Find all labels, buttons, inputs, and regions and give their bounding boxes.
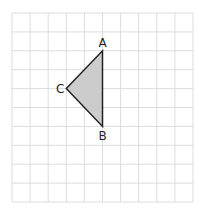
grid-diagram: A B C bbox=[0, 0, 200, 210]
vertex-label-b: B bbox=[98, 129, 106, 143]
vertex-label-c: C bbox=[56, 82, 64, 96]
vertex-label-a: A bbox=[98, 36, 107, 50]
